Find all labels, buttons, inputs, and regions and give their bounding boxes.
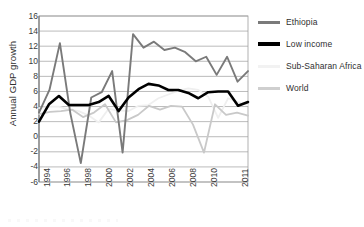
scan-artifact xyxy=(8,219,118,222)
legend-item-2[interactable]: Sub-Saharan Africa xyxy=(258,56,364,76)
x-tick-label: 2004 xyxy=(147,168,156,187)
legend-item-0[interactable]: Ethiopia xyxy=(258,12,364,32)
legend-item-3[interactable]: World xyxy=(258,78,364,98)
x-tick-label: 1998 xyxy=(84,168,93,187)
x-tick-label: 2006 xyxy=(168,168,177,187)
x-tick-label: 2002 xyxy=(126,168,135,187)
chart-legend: EthiopiaLow incomeSub-Saharan AfricaWorl… xyxy=(258,12,364,100)
legend-color-swatch xyxy=(258,21,280,24)
legend-item-label: Low income xyxy=(286,39,332,49)
x-tick-label: 2008 xyxy=(189,168,198,187)
legend-color-swatch xyxy=(258,65,280,68)
legend-item-1[interactable]: Low income xyxy=(258,34,364,54)
legend-item-label: Ethiopia xyxy=(286,17,318,27)
legend-item-label: Sub-Saharan Africa xyxy=(286,61,362,71)
legend-color-swatch xyxy=(258,87,280,90)
x-tick-label: 2010 xyxy=(210,168,219,187)
legend-item-label: World xyxy=(286,83,309,93)
x-tick-label: 2000 xyxy=(105,168,114,187)
x-tick-label: 1994 xyxy=(43,168,52,187)
x-tick-label: 2011 xyxy=(241,169,250,187)
x-tick-label: 1996 xyxy=(63,168,72,187)
legend-color-swatch xyxy=(258,42,280,46)
gdp-growth-line-chart: Annual GDP growth 1614121086420-2-4-6 19… xyxy=(0,0,364,227)
